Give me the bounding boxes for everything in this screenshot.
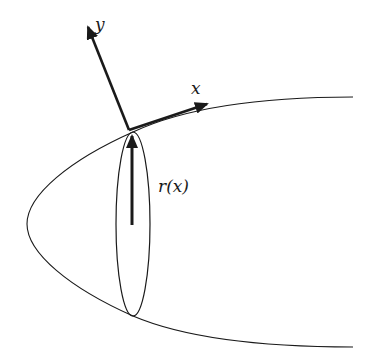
radius-label: r(x) [158, 176, 189, 196]
y-axis-arrow [88, 27, 129, 130]
x-axis-label: x [191, 78, 201, 98]
paraboloid-outline [27, 97, 353, 347]
x-axis-arrow [129, 104, 207, 130]
paraboloid-diagram: y x r(x) [0, 0, 371, 362]
y-axis-label: y [95, 14, 105, 34]
